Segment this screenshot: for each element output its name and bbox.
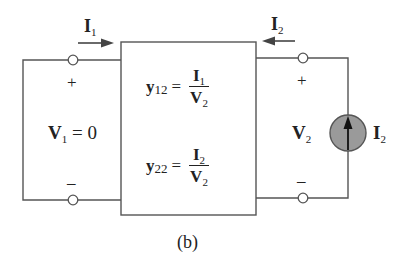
voltage-symbol: V	[292, 122, 306, 143]
current-subscript: 1	[91, 26, 97, 38]
numerator: I2	[192, 146, 206, 163]
denominator-subscript: 2	[202, 176, 208, 188]
numerator: I1	[192, 67, 206, 84]
current-arrow-i1-icon	[78, 39, 114, 48]
port1-top-terminal	[68, 55, 78, 65]
fraction: I2 V2	[189, 146, 209, 185]
numerator-symbol: I	[193, 145, 200, 164]
source-subscript: 2	[380, 133, 386, 145]
param-subscript: 12	[155, 83, 168, 96]
numerator-symbol: I	[193, 66, 200, 85]
equals-sign: =	[172, 157, 182, 174]
denominator: V2	[189, 89, 209, 106]
port2-bottom-terminal	[298, 193, 308, 203]
port2-top-terminal	[298, 53, 308, 63]
denominator: V2	[189, 168, 209, 185]
current-symbol: I	[271, 14, 278, 34]
fraction-bar	[189, 165, 209, 166]
denominator-symbol: V	[190, 167, 202, 186]
voltage-subscript: 2	[306, 133, 312, 145]
param-subscript: 22	[155, 162, 168, 175]
voltage-value: = 0	[72, 122, 97, 143]
current-source-label: I2	[373, 123, 386, 142]
current-source-icon	[330, 115, 366, 151]
denominator-subscript: 2	[202, 97, 208, 109]
voltage-subscript: 1	[62, 133, 68, 145]
param-symbol: y	[146, 78, 155, 95]
port1-bottom-terminal	[68, 195, 78, 205]
port1-minus-sign: –	[67, 174, 76, 191]
port1-plus-sign: +	[67, 74, 77, 91]
port2-minus-sign: –	[297, 172, 306, 189]
numerator-subscript: 1	[200, 75, 206, 87]
current-label-i2: I2	[271, 15, 284, 33]
equals-sign: =	[172, 78, 182, 95]
current-symbol: I	[84, 16, 91, 36]
port1-voltage-label: V1 = 0	[48, 123, 97, 142]
fraction-bar	[189, 86, 209, 87]
port2-plus-sign: +	[297, 72, 307, 89]
voltage-symbol: V	[48, 122, 62, 143]
y12-equation: y12 = I1 V2	[146, 67, 209, 106]
port2-voltage-label: V2	[292, 123, 311, 142]
y22-equation: y22 = I2 V2	[146, 146, 209, 185]
fraction: I1 V2	[189, 67, 209, 106]
denominator-symbol: V	[190, 88, 202, 107]
figure-caption: (b)	[177, 233, 198, 251]
current-label-i1: I1	[84, 17, 97, 35]
numerator-subscript: 2	[200, 154, 206, 166]
current-subscript: 2	[278, 24, 284, 36]
current-arrow-i2-icon	[262, 37, 295, 46]
param-symbol: y	[146, 157, 155, 174]
